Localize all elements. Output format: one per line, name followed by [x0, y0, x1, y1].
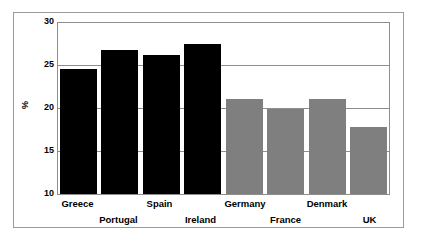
bar-france [267, 109, 304, 194]
x-label-denmark: Denmark [303, 198, 351, 209]
x-label-germany: Germany [221, 198, 269, 209]
x-label-ireland: Ireland [180, 214, 221, 225]
bar-portugal [101, 50, 138, 194]
y-tick-label: 15 [30, 146, 54, 155]
y-tick-label: 10 [30, 189, 54, 198]
y-axis-tick-labels: 30 25 20 15 10 [26, 22, 54, 195]
bar-series [58, 23, 389, 194]
bar-denmark [309, 99, 346, 194]
bar-greece [60, 69, 97, 194]
x-label-uk: UK [349, 214, 390, 225]
y-tick-label: 30 [30, 17, 54, 26]
bar-uk [350, 127, 387, 194]
x-label-greece: Greece [57, 198, 98, 209]
y-tick-label: 20 [30, 103, 54, 112]
y-tick-label: 25 [30, 60, 54, 69]
x-label-france: France [265, 214, 306, 225]
bar-germany [226, 99, 263, 194]
x-label-spain: Spain [139, 198, 180, 209]
x-label-portugal: Portugal [98, 214, 139, 225]
bar-spain [143, 55, 180, 194]
bar-ireland [184, 44, 221, 195]
plot-area [57, 22, 390, 195]
chart-figure: % 30 25 20 15 10 Greece Portugal Spain I… [0, 0, 422, 245]
